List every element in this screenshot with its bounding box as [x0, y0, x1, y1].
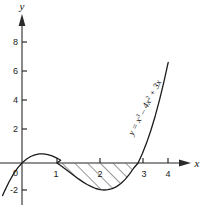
- x-axis-arrowhead: [179, 160, 191, 167]
- x-tick-label-2: 2: [97, 169, 102, 179]
- y-tick-label-2: 2: [13, 124, 18, 134]
- x-tick-label-4: 4: [165, 169, 170, 179]
- y-tick-label-8: 8: [13, 37, 18, 47]
- eqn-lhs: y = x: [125, 116, 143, 138]
- y-tick-label-minus2: -2: [10, 185, 18, 195]
- eqn-mid: – 4x: [136, 98, 153, 118]
- y-axis-label: y: [19, 0, 25, 12]
- y-tick-label-6: 6: [13, 66, 18, 76]
- plot-svg: 8 6 4 2 0 -2 1 2 3 4 y x y = x3 – 4x2 + …: [0, 0, 205, 213]
- x-tick-label-3: 3: [141, 169, 146, 179]
- y-axis-arrowhead: [19, 14, 26, 26]
- y-tick-label-4: 4: [13, 95, 18, 105]
- figure-container: 8 6 4 2 0 -2 1 2 3 4 y x y = x3 – 4x2 + …: [0, 0, 205, 213]
- x-axis-label: x: [194, 157, 200, 169]
- x-tick-label-1: 1: [53, 169, 58, 179]
